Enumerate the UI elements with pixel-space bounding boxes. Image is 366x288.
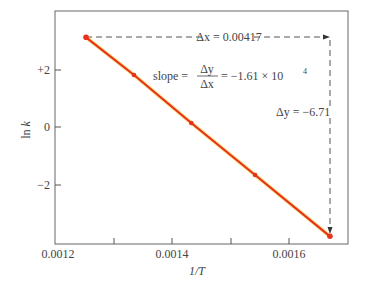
data-point <box>83 35 89 41</box>
slope-denominator: Δx <box>200 77 214 91</box>
slope-numerator: Δy <box>200 62 214 76</box>
y-tick-label: +2 <box>37 63 50 77</box>
y-axis-title-k: k <box>19 120 33 126</box>
data-point <box>253 173 258 178</box>
x-tick-label: 0.0014 <box>156 247 189 261</box>
y-tick-label: −2 <box>37 178 50 192</box>
data-point <box>189 121 194 126</box>
y-tick-label: 0 <box>44 120 50 134</box>
x-tick-label: 0.0016 <box>273 247 306 261</box>
arrhenius-plot: +2 0 −2 ln k 0.0012 0.0014 0.0016 1/T Δx… <box>0 0 366 288</box>
y-axis-title-ln: ln <box>19 126 33 138</box>
slope-annotation: slope = Δy Δx = −1.61 × 10 4 <box>153 62 307 91</box>
data-point <box>132 73 137 78</box>
slope-value: = −1.61 × 10 <box>221 69 283 83</box>
arrow-right-icon <box>323 35 330 40</box>
y-axis-title: ln k <box>19 120 33 138</box>
delta-x-label: Δx = 0.00417 <box>196 30 261 44</box>
slope-prefix: slope = <box>153 69 188 83</box>
data-point <box>327 233 333 239</box>
x-tick-label: 0.0012 <box>42 247 75 261</box>
delta-y-label: Δy = −6.71 <box>276 105 330 119</box>
slope-exponent: 4 <box>303 67 307 76</box>
x-axis-title: 1/T <box>189 264 206 278</box>
